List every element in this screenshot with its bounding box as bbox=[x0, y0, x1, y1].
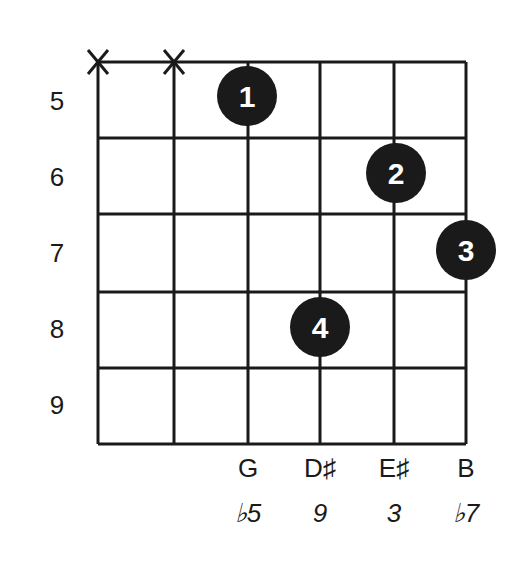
interval-flat7: ♭7 bbox=[436, 498, 496, 529]
fret-number-6: 6 bbox=[42, 162, 72, 193]
interval-3: 3 bbox=[364, 498, 424, 529]
note-g: G bbox=[218, 453, 278, 484]
finger-label-4: 4 bbox=[312, 311, 329, 344]
interval-9: 9 bbox=[290, 498, 350, 529]
fret-number-9: 9 bbox=[42, 390, 72, 421]
finger-label-2: 2 bbox=[388, 157, 405, 190]
fret-number-5: 5 bbox=[42, 86, 72, 117]
finger-label-1: 1 bbox=[239, 80, 256, 113]
finger-label-3: 3 bbox=[458, 234, 475, 267]
fretboard-grid: 1 2 3 4 bbox=[0, 0, 526, 570]
note-b: B bbox=[436, 453, 496, 484]
note-e-sharp: E♯ bbox=[364, 453, 424, 484]
fret-number-8: 8 bbox=[42, 314, 72, 345]
fret-number-7: 7 bbox=[42, 238, 72, 269]
interval-flat5: ♭5 bbox=[218, 498, 278, 529]
chord-diagram: 1 2 3 4 5 6 7 8 9 G D♯ E♯ B ♭5 9 3 ♭7 bbox=[0, 0, 526, 570]
note-d-sharp: D♯ bbox=[290, 453, 350, 484]
